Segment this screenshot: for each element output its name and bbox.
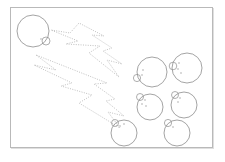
cell-nucleus-dot xyxy=(177,101,178,102)
cell-nucleus-dot xyxy=(142,69,143,70)
cell-nucleus-dot xyxy=(180,72,181,73)
illustration-stage xyxy=(0,0,225,162)
cell-nucleus-dot xyxy=(145,105,146,106)
cell-membrane-outline xyxy=(137,57,167,87)
budding-cell-top-left xyxy=(17,15,50,47)
cell-bud-circle xyxy=(172,92,179,99)
cell-nucleus-dot xyxy=(141,103,142,104)
cell-nucleus-dot xyxy=(144,99,145,100)
cell-membrane-outline xyxy=(164,120,190,146)
cell-nucleus-dot xyxy=(141,74,142,75)
cell-nucleus-dot xyxy=(123,123,124,124)
budding-cell-right-upper-right xyxy=(169,53,202,83)
cell-bud-circle xyxy=(42,37,50,45)
figure-canvas xyxy=(0,0,225,162)
budding-cell-right-middle-right xyxy=(171,92,197,119)
budding-cell-bottom-left xyxy=(111,120,137,147)
cell-bud-circle xyxy=(164,119,171,126)
cell-nucleus-dot xyxy=(172,126,173,127)
budding-cell-right-middle-left xyxy=(137,94,164,121)
lightning-arrow-group xyxy=(34,23,124,128)
budding-cell-bottom-right xyxy=(164,119,190,146)
dotted-lightning-arrow-lower xyxy=(34,55,124,128)
cell-bud-circle xyxy=(137,94,144,101)
cell-membrane-outline xyxy=(137,94,163,120)
cell-nucleus-dot xyxy=(179,97,180,98)
cell-membrane-outline xyxy=(17,15,49,47)
budding-cell-right-upper-left xyxy=(133,57,167,87)
cell-nucleus-dot xyxy=(177,68,178,69)
cell-nucleus-dot xyxy=(119,125,120,126)
dotted-lightning-arrow-upper xyxy=(51,23,122,77)
cell-nucleus-dot xyxy=(40,38,41,39)
cell-nucleus-dot xyxy=(178,62,179,63)
cell-membrane-outline xyxy=(171,92,197,118)
